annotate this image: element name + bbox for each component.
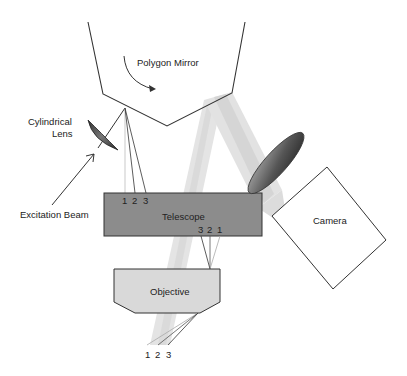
camera-label: Camera [313, 215, 348, 226]
scan-lines-out [201, 236, 220, 269]
telescope-input-2: 2 [132, 195, 137, 206]
cylindrical-lens-label-line2: Lens [52, 128, 73, 139]
polygon-mirror-label: Polygon Mirror [137, 57, 199, 68]
sample-point-2: 2 [155, 349, 160, 360]
sample-point-3: 3 [166, 349, 171, 360]
cylindrical-lens-label-line1: Cylindrical [28, 116, 72, 127]
telescope-output-2: 2 [207, 224, 212, 235]
telescope-input-1: 1 [122, 195, 127, 206]
telescope-output-3: 3 [198, 224, 203, 235]
optical-diagram: Polygon Mirror Excitation Beam Cylindric… [0, 0, 407, 376]
sample-point-1: 1 [145, 349, 150, 360]
excitation-beam-label: Excitation Beam [20, 209, 89, 220]
telescope-output-1: 1 [217, 224, 222, 235]
telescope-label: Telescope [162, 211, 205, 222]
scan-lines-in [125, 108, 146, 193]
camera: Camera [272, 167, 386, 289]
telescope: Telescope 1 2 3 3 2 1 [104, 193, 262, 236]
cylindrical-lens: Cylindrical Lens [28, 116, 118, 150]
objective: Objective [114, 269, 220, 313]
objective-label: Objective [150, 286, 190, 297]
telescope-input-3: 3 [143, 195, 148, 206]
